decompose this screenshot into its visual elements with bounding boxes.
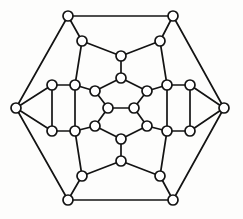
edge-layer [16, 16, 224, 200]
graph-edge [160, 41, 167, 85]
graph-node-m4 [185, 126, 195, 136]
graph-edge [75, 131, 82, 176]
graph-edge [16, 16, 68, 108]
graph-node-i6 [142, 121, 152, 131]
graph-node-h6 [11, 103, 21, 113]
graph-node-h4 [168, 195, 178, 205]
graph-edge [82, 161, 121, 176]
graph-node-m2 [155, 36, 165, 46]
graph-edge [160, 131, 167, 176]
graph-node-h1 [63, 11, 73, 21]
graph-node-c2 [129, 103, 139, 113]
graph-canvas [0, 0, 243, 219]
graph-edge [82, 41, 121, 56]
graph-node-m3 [185, 80, 195, 90]
graph-edge [121, 161, 160, 176]
graph-edge [190, 85, 224, 108]
graph-node-i5 [90, 121, 100, 131]
graph-edge [190, 108, 224, 131]
graph-node-m7 [47, 126, 57, 136]
graph-node-h3 [219, 103, 229, 113]
graph-edge [173, 16, 224, 108]
graph-figure [0, 0, 243, 219]
graph-edge [121, 41, 160, 56]
graph-node-m12 [70, 126, 80, 136]
graph-node-m11 [162, 126, 172, 136]
graph-edge [173, 108, 224, 200]
graph-edge [16, 108, 68, 200]
graph-node-m5 [155, 171, 165, 181]
graph-node-m6 [77, 171, 87, 181]
graph-node-i8 [116, 156, 126, 166]
graph-edge [75, 41, 82, 85]
graph-node-c1 [103, 103, 113, 113]
graph-node-h2 [168, 11, 178, 21]
graph-node-i7 [116, 134, 126, 144]
graph-node-m1 [77, 36, 87, 46]
graph-node-m9 [70, 80, 80, 90]
graph-node-i2 [116, 73, 126, 83]
graph-node-i4 [142, 86, 152, 96]
graph-node-i1 [116, 51, 126, 61]
graph-node-i3 [90, 86, 100, 96]
graph-edge [16, 85, 52, 108]
graph-edge [16, 108, 52, 131]
graph-node-h5 [63, 195, 73, 205]
graph-node-m10 [162, 80, 172, 90]
graph-node-m8 [47, 80, 57, 90]
